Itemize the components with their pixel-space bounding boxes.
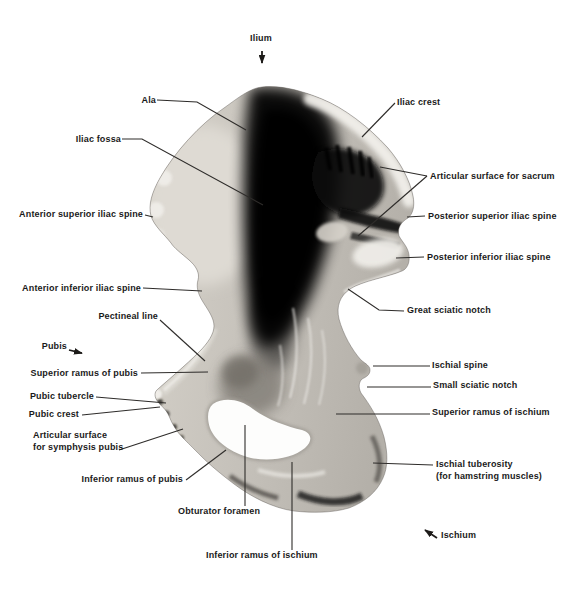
leader-great-sciatic-notch xyxy=(348,289,404,311)
label-articular-surface-line2: for symphysis pubis xyxy=(33,442,123,454)
leader-pubic-crest xyxy=(82,407,160,415)
label-iliac-crest: Iliac crest xyxy=(397,97,440,109)
label-small-sciatic-notch: Small sciatic notch xyxy=(433,380,517,392)
label-articular-surface-line1: Articular surface xyxy=(33,430,123,442)
hip-bone xyxy=(147,87,414,513)
ischium-arrow-icon xyxy=(425,530,437,538)
leader-articular-surface-symphysis xyxy=(119,429,183,450)
label-superior-ramus-of-ischium: Superior ramus of ischium xyxy=(432,407,550,419)
label-ischial-spine: Ischial spine xyxy=(432,360,488,372)
pubis-arrow-icon xyxy=(69,350,82,353)
label-articular-surface-for-symphysis-pubis: Articular surface for symphysis pubis xyxy=(33,430,123,453)
label-pectineal-line: Pectineal line xyxy=(98,311,158,323)
label-posterior-inferior-iliac-spine: Posterior inferior iliac spine xyxy=(427,252,551,264)
label-ischial-tuberosity: Ischial tuberosity (for hamstring muscle… xyxy=(436,459,542,482)
label-ischial-tuberosity-line2: (for hamstring muscles) xyxy=(436,471,542,483)
label-obturator-foramen: Obturator foramen xyxy=(178,506,260,518)
label-anterior-inferior-iliac-spine: Anterior inferior iliac spine xyxy=(22,283,141,295)
bone-illustration xyxy=(0,0,577,598)
anatomy-figure: Ilium Ala Iliac fossa Iliac crest Articu… xyxy=(0,0,577,598)
label-iliac-fossa: Iliac fossa xyxy=(76,134,121,146)
label-pubic-crest: Pubic crest xyxy=(29,409,79,421)
label-pubis: Pubis xyxy=(42,341,67,353)
leader-iliac-crest xyxy=(362,103,395,137)
label-anterior-superior-iliac-spine: Anterior superior iliac spine xyxy=(19,209,143,221)
label-ischial-tuberosity-line1: Ischial tuberosity xyxy=(436,459,542,471)
label-ala: Ala xyxy=(142,95,156,107)
label-great-sciatic-notch: Great sciatic notch xyxy=(407,305,491,317)
label-ischium: Ischium xyxy=(441,530,476,542)
leader-pectineal-line xyxy=(160,320,205,361)
label-inferior-ramus-of-pubis: Inferior ramus of pubis xyxy=(82,474,183,486)
label-articular-surface-for-sacrum: Articular surface for sacrum xyxy=(430,171,555,183)
label-posterior-superior-iliac-spine: Posterior superior iliac spine xyxy=(428,211,557,223)
label-pubic-tubercle: Pubic tubercle xyxy=(30,391,94,403)
label-inferior-ramus-of-ischium: Inferior ramus of ischium xyxy=(206,550,318,562)
label-ilium: Ilium xyxy=(250,33,272,45)
label-superior-ramus-of-pubis: Superior ramus of pubis xyxy=(31,368,138,380)
leader-anterior-inferior-iliac-spine xyxy=(143,288,202,291)
